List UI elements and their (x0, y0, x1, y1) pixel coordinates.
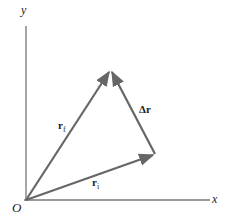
vector-r-i (26, 155, 153, 200)
x-axis-label: x (212, 193, 217, 205)
vector-r-f-label-sub: f (63, 125, 66, 134)
vector-delta-r-label: Δr (139, 104, 151, 115)
y-axis-label: y (21, 4, 26, 16)
displacement-vector-diagram: y x O rf ri Δr (0, 0, 233, 222)
vector-r-i-label: ri (92, 177, 99, 191)
diagram-canvas (0, 0, 233, 222)
vector-r-f-label: rf (58, 120, 66, 134)
vector-r-i-label-sub: i (97, 182, 99, 191)
origin-label: O (12, 201, 21, 214)
